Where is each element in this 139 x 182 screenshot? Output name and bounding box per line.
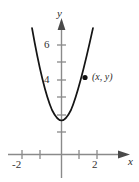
parabola-figure: 6 4 -2 2 y x (x, y) <box>0 0 139 182</box>
y-tick-label-4: 4 <box>44 74 50 85</box>
x-tick-label-2: 2 <box>92 159 98 170</box>
y-axis-arrowhead <box>58 18 66 30</box>
parabola-curve <box>32 28 93 121</box>
y-axis-label: y <box>57 8 62 19</box>
y-tick-label-6: 6 <box>44 39 50 50</box>
x-tick-label-neg2: -2 <box>12 159 21 170</box>
x-axis-label: x <box>128 156 133 167</box>
plot-canvas <box>0 0 139 182</box>
data-point-label: (x, y) <box>92 72 113 82</box>
data-point-marker <box>82 75 87 80</box>
